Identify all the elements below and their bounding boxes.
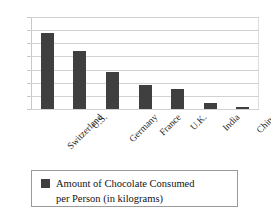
y-axis-tick-mark	[27, 70, 31, 71]
y-axis-tick-mark	[27, 17, 31, 18]
x-axis-tick-label: Germany	[128, 112, 160, 144]
legend-label-line2: per Person (in kilograms)	[56, 191, 163, 206]
legend-label-line1: Amount of Chocolate Consumed	[56, 176, 195, 191]
legend-swatch-icon	[41, 179, 50, 188]
bar	[106, 72, 119, 109]
y-axis-tick-mark	[27, 83, 31, 84]
gridline	[31, 30, 259, 31]
legend-entry: Amount of Chocolate Consumed	[41, 176, 195, 191]
plot-area: 02468101214	[31, 17, 259, 109]
bar	[171, 89, 184, 109]
x-axis-tick-labels: SwitzerlandU.S.GermanyFranceU.K.IndiaChi…	[31, 110, 259, 158]
x-axis-tick-label: India	[221, 112, 242, 133]
bar	[139, 85, 152, 109]
gridline	[31, 17, 259, 18]
gridline	[31, 43, 259, 44]
gridline	[31, 56, 259, 57]
y-axis-tick-mark	[27, 96, 31, 97]
x-axis-tick-label: France	[158, 112, 183, 137]
x-axis-tick-label: U.K.	[188, 112, 208, 132]
x-axis-tick-label: China	[254, 112, 271, 135]
gridline	[31, 70, 259, 71]
chocolate-consumption-bar-chart: 02468101214 SwitzerlandU.S.GermanyFrance…	[0, 0, 271, 211]
bar	[204, 103, 217, 109]
bar	[236, 107, 249, 109]
chart-legend: Amount of Chocolate Consumed per Person …	[31, 170, 238, 207]
y-axis-tick-mark	[27, 56, 31, 57]
y-axis-tick-mark	[27, 30, 31, 31]
bar	[41, 33, 54, 109]
y-axis-tick-mark	[27, 43, 31, 44]
gridline	[31, 83, 259, 84]
bar	[73, 51, 86, 109]
